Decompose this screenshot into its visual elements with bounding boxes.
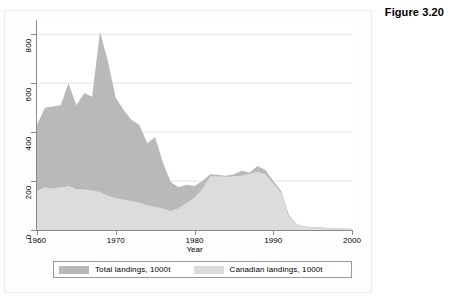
x-tick-label: 1990	[264, 236, 282, 245]
y-tick-mark	[31, 83, 36, 84]
legend-swatch-total-landings	[59, 266, 89, 274]
x-tick-mark	[273, 231, 274, 235]
y-tick-mark	[31, 132, 36, 133]
x-tick-label: 1970	[107, 236, 125, 245]
x-axis-title: Year	[37, 245, 352, 254]
y-tick-label-wrap: 400	[4, 132, 29, 133]
legend-label-total-landings: Total landings, 1000t	[95, 265, 171, 274]
y-tick-label: 200	[25, 186, 34, 200]
plot-area	[37, 22, 352, 230]
y-tick-mark	[31, 230, 36, 231]
x-tick-mark	[195, 231, 196, 235]
legend: Total landings, 1000t Canadian landings,…	[53, 261, 352, 278]
x-tick-label: 2000	[343, 236, 361, 245]
x-tick-mark	[352, 231, 353, 235]
y-tick-label-wrap: 600	[4, 83, 29, 84]
legend-entry-canadian-landings: Canadian landings, 1000t	[189, 262, 323, 277]
x-tick-mark	[116, 231, 117, 235]
area-chart-svg	[37, 22, 352, 230]
legend-entry-total-landings: Total landings, 1000t	[54, 262, 171, 277]
legend-swatch-canadian-landings	[194, 266, 224, 274]
y-tick-label: 600	[25, 88, 34, 102]
x-tick-label: 1980	[185, 236, 203, 245]
y-tick-mark	[31, 181, 36, 182]
y-tick-label: 800	[25, 39, 34, 53]
legend-label-canadian-landings: Canadian landings, 1000t	[230, 265, 323, 274]
y-tick-label: 400	[25, 137, 34, 151]
figure-container: Figure 3.20 0200400600800196019701980199…	[0, 0, 450, 299]
y-tick-label-wrap: 0	[4, 230, 29, 231]
y-tick-label-wrap: 200	[4, 181, 29, 182]
y-tick-mark	[31, 34, 36, 35]
x-tick-label: 1960	[28, 236, 46, 245]
x-tick-mark	[37, 231, 38, 235]
y-tick-label-wrap: 800	[4, 34, 29, 35]
figure-title: Figure 3.20	[385, 6, 444, 18]
